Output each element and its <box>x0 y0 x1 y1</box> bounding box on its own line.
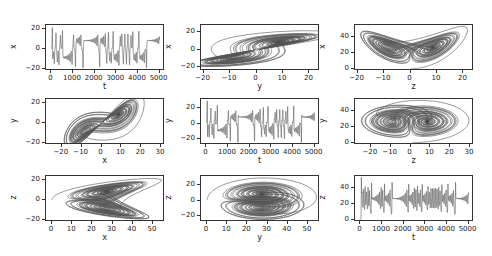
xtick-label: 50 <box>137 225 167 233</box>
xtick-label: 50 <box>292 225 322 233</box>
xtick-mark <box>270 144 271 147</box>
ytick-mark <box>197 49 200 50</box>
plot-line <box>46 176 164 221</box>
ytick-label: −20 <box>173 211 195 219</box>
plot-line <box>355 99 473 144</box>
ytick-mark <box>351 126 354 127</box>
xtick-mark <box>91 221 92 224</box>
ytick-label: −20 <box>173 62 195 70</box>
x-axis-label: x <box>95 233 115 242</box>
xtick-mark <box>436 70 437 73</box>
ytick-label: 0 <box>18 195 40 203</box>
xtick-mark <box>206 221 207 224</box>
y-axis-label: x <box>164 41 173 53</box>
xtick-mark <box>137 70 138 73</box>
xtick-mark <box>370 144 371 147</box>
xtick-label: 30 <box>454 148 484 156</box>
y-axis-label: y <box>9 115 18 127</box>
ytick-mark <box>42 28 45 29</box>
xtick-label: 5000 <box>299 148 329 156</box>
ytick-mark <box>42 102 45 103</box>
xtick-mark <box>132 221 133 224</box>
xtick-mark <box>229 70 230 73</box>
ytick-label: 0 <box>327 138 349 146</box>
xtick-mark <box>314 144 315 147</box>
xtick-mark <box>203 70 204 73</box>
ytick-mark <box>197 66 200 67</box>
axes-p3 <box>354 24 473 70</box>
xtick-mark <box>307 221 308 224</box>
xtick-mark <box>282 70 283 73</box>
ytick-mark <box>197 31 200 32</box>
xtick-mark <box>51 221 52 224</box>
xtick-mark <box>159 70 160 73</box>
xtick-mark <box>246 221 247 224</box>
ytick-mark <box>42 142 45 143</box>
axes-p2 <box>200 24 319 70</box>
ytick-label: 20 <box>327 122 349 130</box>
xtick-mark <box>256 70 257 73</box>
y-axis-label: z <box>318 192 327 204</box>
plot-line <box>201 25 319 70</box>
xtick-mark <box>160 144 161 147</box>
ytick-label: 0 <box>173 196 195 204</box>
ytick-label: 20 <box>18 24 40 32</box>
xtick-mark <box>357 70 358 73</box>
y-axis-label: z <box>164 192 173 204</box>
plot-line <box>355 176 473 221</box>
ytick-label: 0 <box>327 215 349 223</box>
xtick-mark <box>292 144 293 147</box>
y-axis-label: z <box>9 192 18 204</box>
axes-p8 <box>200 175 319 221</box>
ytick-label: −20 <box>18 138 40 146</box>
xtick-mark <box>446 221 447 224</box>
xtick-mark <box>390 144 391 147</box>
x-axis-label: y <box>250 82 270 91</box>
ytick-label: 40 <box>327 183 349 191</box>
ytick-mark <box>197 138 200 139</box>
xtick-mark <box>120 144 121 147</box>
xtick-mark <box>140 144 141 147</box>
y-axis-label: y <box>318 115 327 127</box>
xtick-mark <box>112 221 113 224</box>
ytick-mark <box>351 110 354 111</box>
ytick-label: 20 <box>173 180 195 188</box>
ytick-label: −20 <box>18 215 40 223</box>
x-axis-label: t <box>404 233 424 242</box>
xtick-label: 30 <box>145 148 175 156</box>
ytick-label: −20 <box>18 64 40 72</box>
axes-p1 <box>45 24 164 70</box>
xtick-mark <box>205 144 206 147</box>
ytick-mark <box>42 179 45 180</box>
ytick-label: 20 <box>327 48 349 56</box>
xtick-mark <box>152 221 153 224</box>
xtick-mark <box>410 70 411 73</box>
xtick-mark <box>462 70 463 73</box>
ytick-mark <box>197 184 200 185</box>
x-axis-label: z <box>404 82 424 91</box>
xtick-mark <box>94 70 95 73</box>
xtick-mark <box>50 70 51 73</box>
ytick-label: −20 <box>173 134 195 142</box>
xtick-mark <box>308 70 309 73</box>
ytick-mark <box>197 123 200 124</box>
xtick-mark <box>72 70 73 73</box>
xtick-mark <box>61 144 62 147</box>
ytick-mark <box>197 107 200 108</box>
x-axis-label: x <box>95 156 115 165</box>
y-axis-label: x <box>9 41 18 53</box>
ytick-mark <box>351 203 354 204</box>
xtick-mark <box>381 221 382 224</box>
ytick-label: 0 <box>327 64 349 72</box>
ytick-mark <box>351 52 354 53</box>
ytick-mark <box>351 68 354 69</box>
ytick-mark <box>351 219 354 220</box>
xtick-mark <box>429 144 430 147</box>
ytick-mark <box>42 199 45 200</box>
plot-line <box>46 25 164 70</box>
xtick-mark <box>227 144 228 147</box>
ytick-label: 20 <box>173 103 195 111</box>
plot-line <box>201 99 319 144</box>
xtick-mark <box>410 144 411 147</box>
xtick-mark <box>71 221 72 224</box>
